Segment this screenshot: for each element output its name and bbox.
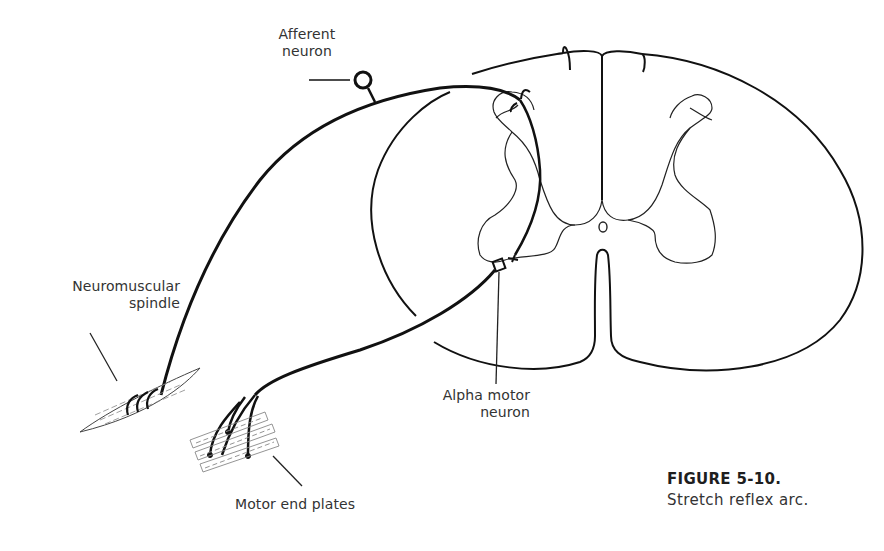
neuromuscular-spindle	[80, 333, 200, 432]
spinal-cord	[371, 47, 862, 370]
stretch-reflex-diagram	[0, 0, 884, 551]
muscle-fibers	[190, 412, 302, 486]
figure-caption: Stretch reflex arc.	[667, 491, 809, 509]
label-afferent-neuron: Afferent neuron	[262, 26, 352, 60]
alpha-motor-pointer	[496, 272, 499, 384]
afferent-neuron	[161, 72, 540, 395]
label-motor-end-plates: Motor end plates	[235, 496, 355, 513]
label-alpha-motor-neuron: Alpha motor neuron	[420, 387, 530, 421]
alpha-motor-neuron	[208, 259, 506, 459]
figure-number: FIGURE 5-10.	[667, 470, 781, 488]
label-neuromuscular-spindle: Neuromuscular spindle	[30, 278, 180, 312]
grey-matter	[478, 92, 715, 263]
